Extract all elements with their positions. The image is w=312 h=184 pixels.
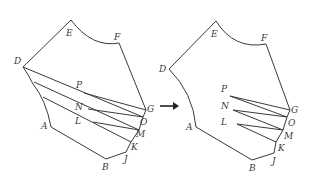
label-d-right: D bbox=[158, 64, 166, 74]
label-n-right: N bbox=[220, 101, 230, 111]
right-dart-p2 bbox=[230, 96, 290, 110]
label-l: L bbox=[74, 116, 81, 126]
label-e: E bbox=[65, 28, 73, 38]
label-f-right: F bbox=[260, 33, 268, 43]
label-a: A bbox=[40, 121, 48, 131]
label-d: D bbox=[13, 56, 21, 66]
label-e-right: E bbox=[210, 29, 218, 39]
left-outline bbox=[23, 20, 146, 159]
label-n: N bbox=[74, 102, 84, 112]
label-p-right: P bbox=[220, 84, 228, 94]
label-f: F bbox=[113, 32, 121, 42]
left-slash-p2 bbox=[84, 93, 146, 110]
label-m-right: M bbox=[283, 131, 294, 141]
diagram-canvas: E F D P N L G O M K J B A E F D P N L G … bbox=[0, 0, 312, 184]
label-b-right: B bbox=[248, 163, 256, 173]
label-m: M bbox=[135, 129, 146, 139]
label-p: P bbox=[75, 80, 83, 90]
label-k: K bbox=[130, 142, 139, 152]
left-slash-p bbox=[23, 67, 143, 117]
label-o: O bbox=[140, 117, 148, 127]
left-figure: E F D P N L G O M K J B A bbox=[13, 20, 154, 172]
right-dart-p bbox=[230, 96, 287, 117]
left-slash-l bbox=[43, 97, 131, 142]
label-o-right: O bbox=[288, 118, 296, 128]
label-j: J bbox=[122, 154, 129, 164]
label-a-right: A bbox=[185, 122, 193, 132]
label-g: G bbox=[147, 104, 154, 114]
label-j-right: J bbox=[270, 156, 277, 166]
right-outline bbox=[169, 21, 290, 160]
right-figure: E F D P N L G O M K J B A bbox=[158, 21, 298, 173]
label-l-right: L bbox=[220, 117, 227, 127]
label-g-right: G bbox=[291, 105, 298, 115]
label-k-right: K bbox=[277, 143, 286, 153]
arrow-icon bbox=[160, 102, 179, 110]
label-b: B bbox=[101, 162, 109, 172]
left-slash-n2 bbox=[88, 109, 143, 117]
